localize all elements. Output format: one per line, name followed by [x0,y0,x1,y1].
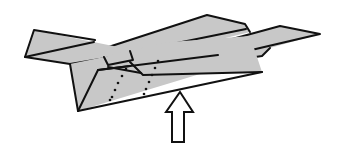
paper-airplane-diagram [0,0,342,160]
diagram-canvas [0,0,342,160]
push-up-arrow-icon [166,92,193,142]
